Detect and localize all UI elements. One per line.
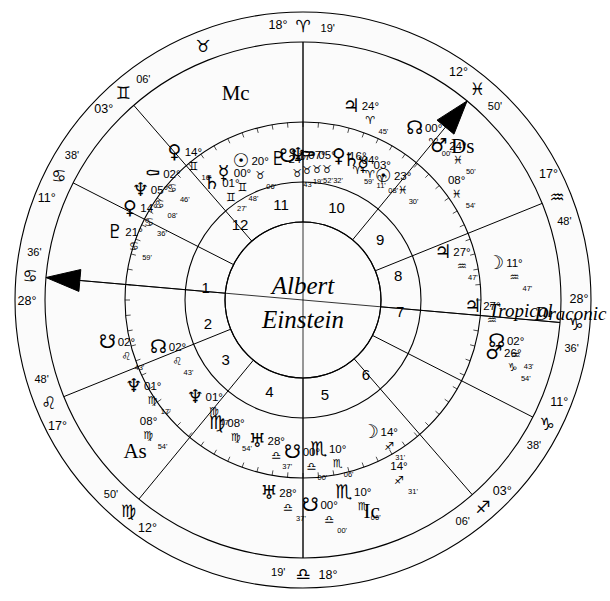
- tropical-mercury-minute: 48': [249, 194, 259, 203]
- cusp-degree-cusp-6: 17°: [48, 419, 67, 433]
- draconic-sagittarius-point-sign: ♐: [394, 474, 404, 487]
- draconic-wheel-label: Draconic: [534, 303, 607, 324]
- cusp-sign-cancer: ♋: [51, 166, 66, 186]
- cusp-sign-libra: ♎: [295, 564, 310, 584]
- tropical-neptune-vir-glyph: ♆: [187, 385, 204, 407]
- cusp-minute-asc-cusp: 36': [27, 246, 41, 258]
- draconic-moon-sign: ♒: [509, 271, 519, 284]
- tropical-uranus-tr-degree: 28°: [268, 435, 285, 447]
- house-number-12: 12: [232, 216, 249, 233]
- tropical-scorpio-tr-minute: 06': [344, 470, 354, 479]
- draconic-south-node-2-degree: 02°: [118, 336, 135, 348]
- as-label: As: [123, 439, 146, 463]
- draconic-chiron-outer-glyph: ⚰: [145, 162, 161, 184]
- cusp-degree-cusp-12: 17°: [539, 167, 558, 181]
- draconic-uranus-glyph: ♅: [260, 481, 277, 503]
- draconic-ascendant-marker-minute: 54': [158, 442, 168, 451]
- draconic-moon-minute: 47': [523, 284, 533, 293]
- draconic-descendant-marker-minute: 54': [466, 201, 476, 210]
- cusp-minute-cusp-5: 50': [104, 488, 118, 500]
- draconic-chiron-outer-minute: 46': [180, 195, 190, 204]
- draconic-north-node-2-minute: 43': [524, 362, 534, 371]
- cusp-minute-dsc-cusp: 36': [565, 342, 579, 354]
- house-number-10: 10: [328, 199, 345, 216]
- draconic-neptune-degree: 01°: [144, 380, 161, 392]
- tropical-chiron-tr-sign: ♉: [322, 163, 332, 176]
- draconic-uranus-degree: 28°: [279, 487, 296, 499]
- tropical-saturn-sign: ♊: [226, 191, 236, 204]
- cusp-degree-cusp-8: 11°: [38, 191, 56, 205]
- house-number-3: 3: [222, 351, 230, 368]
- draconic-jupiter-minute: 45': [378, 127, 388, 136]
- tropical-sun-sign: ♉: [255, 169, 265, 182]
- draconic-jupiter-glyph: ♃: [343, 94, 360, 116]
- draconic-venus-gemini-degree: 14°: [185, 146, 202, 158]
- tropical-sun-degree: 20°: [251, 155, 268, 167]
- tropical-saturn-glyph: ♄: [203, 171, 220, 193]
- tropical-libra-node-tr-degree: 00°: [303, 446, 320, 458]
- ic-label: Ic: [363, 499, 379, 523]
- tropical-chiron-tr-glyph: ⚰: [300, 143, 316, 165]
- tropical-jupiter-tr-glyph: ♃: [434, 240, 451, 262]
- tropical-saturn-degree: 01°: [222, 177, 239, 189]
- tropical-south-node-tr-sign: ♉: [302, 164, 312, 177]
- tropical-moon-tr-degree: 14°: [380, 426, 397, 438]
- draconic-south-node-minute: 00': [337, 526, 347, 535]
- draconic-venus-outer-sign: ♋: [144, 216, 154, 229]
- draconic-pluto-outer-minute: 59': [142, 253, 152, 262]
- chart-wheel: ♈18°19'♓12°50'♒17°48'♑28°36'♑11°38'♐03°0…: [0, 0, 610, 601]
- cusp-minute-cusp-8: 38': [65, 149, 79, 161]
- draconic-chiron-outer-sign: ♋: [167, 182, 177, 195]
- draconic-moon-degree: 11°: [506, 257, 523, 269]
- cusp-sign-sagittarius: ♐: [475, 497, 490, 517]
- tropical-virgo-tr-minute: 54': [242, 444, 252, 453]
- draconic-venus-gemini-sign: ♊: [188, 160, 198, 173]
- tropical-sun-tr-degree: 23°: [394, 170, 411, 182]
- cusp-sign-aquarius: ♒: [549, 187, 564, 207]
- draconic-north-node-glyph: ☊: [406, 116, 423, 138]
- draconic-mars-2-degree: 26°: [504, 347, 521, 359]
- astrology-chart: ♈18°19'♓12°50'♒17°48'♑28°36'♑11°38'♐03°0…: [0, 0, 610, 601]
- cusp-minute-cusp-9: 06': [136, 73, 150, 85]
- draconic-north-node-degree: 00°: [425, 122, 442, 134]
- cusp-minute-cusp-2: 38': [527, 439, 541, 451]
- chart-name-first: Albert: [270, 272, 336, 299]
- house-number-4: 4: [265, 383, 273, 400]
- draconic-pluto-outer-glyph: ♇: [107, 220, 124, 242]
- draconic-south-node-2-sign: ♌: [121, 350, 131, 363]
- tropical-saturn-minute: 27': [237, 204, 247, 213]
- tropical-sun-tr-glyph: ☉: [375, 164, 392, 186]
- cusp-degree-cusp-5: 12°: [138, 521, 157, 535]
- draconic-sagittarius-point-degree: 14°: [390, 460, 407, 472]
- draconic-jupiter-sign: ♈: [365, 114, 375, 127]
- draconic-south-node-sign: ♎: [324, 513, 334, 526]
- house-number-1: 1: [202, 279, 210, 296]
- tropical-moon-tr-sign: ♐: [384, 440, 394, 453]
- cusp-sign-virgo: ♍: [121, 501, 136, 521]
- draconic-neptune-sign: ♍: [148, 394, 158, 407]
- draconic-pluto-outer-degree: 21°: [125, 226, 142, 238]
- draconic-south-node-2-minute: 43': [134, 363, 144, 372]
- ds-label: Ds: [451, 134, 474, 158]
- tropical-neptune-vir-sign: ♍: [209, 405, 219, 418]
- house-number-11: 11: [273, 196, 289, 213]
- draconic-jupiter-aqu-glyph: ♃: [464, 294, 481, 316]
- tropical-neptune-tr-minute: 52': [323, 176, 333, 185]
- house-number-9: 9: [376, 231, 384, 248]
- tropical-pluto-sign: ♉: [292, 167, 302, 180]
- tropical-node-leo-tr-glyph: ☊: [150, 335, 167, 357]
- tropical-sun-tr-sign: ♓: [398, 184, 408, 197]
- tropical-node-leo-tr-sign: ♌: [173, 355, 183, 368]
- tropical-node-leo-tr-minute: 43': [184, 368, 194, 377]
- cusp-minute-cusp-11: 50': [488, 100, 502, 112]
- tropical-uranus-tr-sign: ♎: [271, 449, 281, 462]
- cusp-sign-cancer: ♋: [22, 266, 37, 286]
- draconic-neptune-glyph: ♆: [125, 374, 142, 396]
- draconic-south-node-degree: 00°: [320, 499, 337, 511]
- outer-marker-taurus: ♉: [195, 36, 210, 56]
- cusp-degree-asc-cusp: 28°: [18, 294, 37, 308]
- chart-name-last: Einstein: [261, 306, 344, 333]
- tropical-scorpio-tr-sign: ♏: [333, 457, 343, 470]
- draconic-neptune-outer-degree: 05°: [151, 184, 168, 196]
- tropical-libra-node-tr-glyph: ☋: [284, 440, 301, 462]
